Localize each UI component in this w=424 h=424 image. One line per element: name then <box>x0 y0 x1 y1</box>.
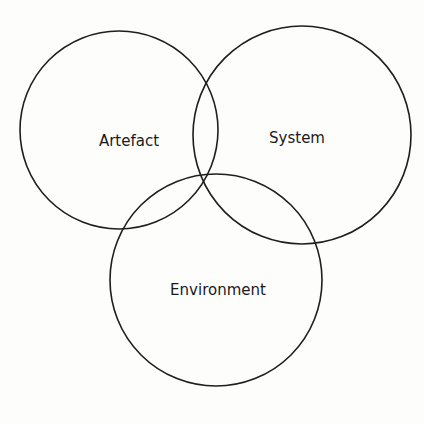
system-label: System <box>269 129 325 147</box>
venn-diagram: Artefact System Environment <box>0 0 424 424</box>
artefact-circle <box>20 31 218 229</box>
artefact-label: Artefact <box>99 132 159 150</box>
environment-circle <box>110 174 322 386</box>
environment-label: Environment <box>170 281 266 299</box>
